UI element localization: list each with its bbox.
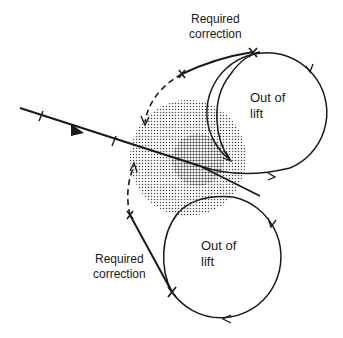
flight-path-diagram: [0, 0, 343, 338]
lower-circle-label: Out of lift: [201, 238, 236, 270]
upper-circle-label: Out of lift: [250, 90, 285, 122]
upper-correction-label: Required correction: [189, 12, 242, 42]
lower-correction-label: Required correction: [93, 252, 146, 282]
